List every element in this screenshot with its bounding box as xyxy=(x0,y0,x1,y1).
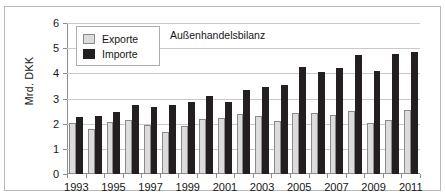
bar-group xyxy=(216,23,235,174)
bar-exporte xyxy=(88,129,95,174)
bar-exporte xyxy=(69,123,76,174)
x-tick-mark xyxy=(216,174,217,178)
bar-importe xyxy=(318,72,325,174)
bar-exporte xyxy=(162,132,169,174)
bar-exporte xyxy=(330,115,337,174)
x-tick-mark xyxy=(141,174,142,178)
x-tick-mark xyxy=(86,174,87,178)
x-tick-mark xyxy=(104,174,105,178)
x-tick-mark xyxy=(420,174,421,178)
x-tick-label: 2011 xyxy=(399,181,423,193)
bar-exporte xyxy=(404,110,411,174)
y-axis-title: Mrd. DKK xyxy=(23,41,35,121)
bar-importe xyxy=(355,55,362,174)
bar-exporte xyxy=(199,119,206,174)
bar-importe xyxy=(374,71,381,174)
chart-frame: Mrd. DKK 0123456 19931995199719992001200… xyxy=(4,6,441,191)
x-tick-mark xyxy=(309,174,310,178)
x-tick-mark xyxy=(290,174,291,178)
x-tick-label: 2001 xyxy=(213,181,237,193)
x-tick-label: 2005 xyxy=(287,181,311,193)
x-tick-label: 2009 xyxy=(361,181,385,193)
x-tick-mark xyxy=(234,174,235,178)
bar-group xyxy=(309,23,328,174)
x-tick-label: 2003 xyxy=(250,181,274,193)
bar-exporte xyxy=(367,123,374,174)
y-tick-label: 1 xyxy=(53,143,59,155)
x-tick-label: 1995 xyxy=(101,181,125,193)
y-tick-label: 2 xyxy=(53,118,59,130)
x-tick-mark xyxy=(253,174,254,178)
x-tick-label: 2007 xyxy=(324,181,348,193)
bar-importe xyxy=(188,102,195,174)
bar-group xyxy=(346,23,365,174)
bar-group xyxy=(234,23,253,174)
chart-title: Außenhandelsbilanz xyxy=(170,29,265,41)
x-tick-mark xyxy=(383,174,384,178)
bar-group xyxy=(197,23,216,174)
y-tick-label: 3 xyxy=(53,93,59,105)
bar-exporte xyxy=(292,113,299,174)
bar-importe xyxy=(243,90,250,174)
bar-group xyxy=(290,23,309,174)
bar-group xyxy=(383,23,402,174)
legend-swatch-exporte xyxy=(83,34,95,44)
bar-importe xyxy=(113,112,120,174)
bar-importe xyxy=(299,67,306,174)
x-tick-mark xyxy=(271,174,272,178)
bar-importe xyxy=(76,117,83,174)
bar-exporte xyxy=(237,114,244,174)
chart-legend: Exporte Importe xyxy=(76,26,160,66)
bar-exporte xyxy=(385,120,392,174)
bar-group xyxy=(401,23,420,174)
bar-exporte xyxy=(255,116,262,174)
bar-importe xyxy=(151,107,158,174)
x-tick-mark xyxy=(160,174,161,178)
bar-group xyxy=(364,23,383,174)
legend-item-exporte: Exporte xyxy=(83,31,154,46)
chart-figure: Mrd. DKK 0123456 19931995199719992001200… xyxy=(0,0,445,196)
bar-importe xyxy=(262,87,269,174)
x-tick-label: 1997 xyxy=(138,181,162,193)
bar-group xyxy=(160,23,179,174)
bar-importe xyxy=(169,105,176,174)
legend-label-exporte: Exporte xyxy=(102,33,138,45)
bar-exporte xyxy=(311,113,318,174)
y-tick-label: 4 xyxy=(53,67,59,79)
x-tick-mark xyxy=(401,174,402,178)
bar-importe xyxy=(132,105,139,174)
bar-importe xyxy=(392,54,399,174)
x-tick-mark xyxy=(123,174,124,178)
bar-exporte xyxy=(218,118,225,174)
y-tick-label: 0 xyxy=(53,168,59,180)
x-tick-mark xyxy=(327,174,328,178)
bar-exporte xyxy=(181,126,188,174)
legend-item-importe: Importe xyxy=(83,46,154,61)
x-tick-mark xyxy=(197,174,198,178)
bar-exporte xyxy=(144,125,151,174)
bar-group xyxy=(178,23,197,174)
bar-group xyxy=(271,23,290,174)
bar-importe xyxy=(411,52,418,174)
bar-group xyxy=(327,23,346,174)
y-tick-label: 6 xyxy=(53,17,59,29)
x-tick-label: 1993 xyxy=(64,181,88,193)
bar-importe xyxy=(281,85,288,174)
bar-group xyxy=(253,23,272,174)
bar-importe xyxy=(336,68,343,174)
bar-exporte xyxy=(125,120,132,174)
x-tick-mark xyxy=(178,174,179,178)
legend-swatch-importe xyxy=(83,49,95,59)
x-tick-label: 1999 xyxy=(176,181,200,193)
bar-exporte xyxy=(348,111,355,174)
legend-label-importe: Importe xyxy=(102,48,138,60)
bar-exporte xyxy=(274,121,281,174)
bar-importe xyxy=(225,102,232,174)
y-tick-label: 5 xyxy=(53,42,59,54)
bar-importe xyxy=(206,96,213,174)
x-tick-mark xyxy=(67,174,68,178)
bar-exporte xyxy=(107,122,114,174)
x-tick-mark xyxy=(346,174,347,178)
x-tick-mark xyxy=(364,174,365,178)
bar-importe xyxy=(95,116,102,174)
